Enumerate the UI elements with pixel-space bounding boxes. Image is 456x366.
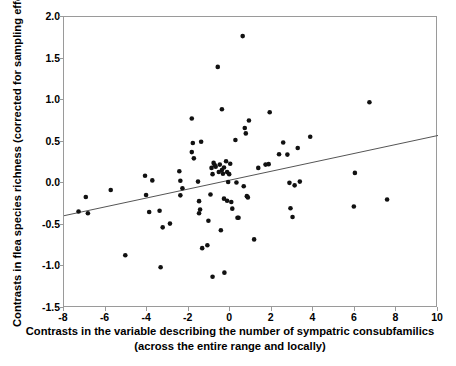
x-tick-label: 8	[380, 311, 410, 323]
x-tick-label: -2	[173, 311, 203, 323]
x-tick-label: 0	[214, 311, 244, 323]
x-tick-label: 2	[256, 311, 286, 323]
x-tick-label: 10	[422, 311, 452, 323]
x-tick-label: 6	[339, 311, 369, 323]
x-axis-label: Contrasts in the variable describing the…	[20, 324, 440, 354]
x-axis-tick-labels: -8-6-4-20246810	[0, 0, 456, 366]
x-tick-label: 4	[297, 311, 327, 323]
x-tick-label: -4	[131, 311, 161, 323]
x-tick-label: -6	[90, 311, 120, 323]
x-tick-label: -8	[48, 311, 78, 323]
scatter-plot-figure: Contrasts in flea species richness (corr…	[0, 0, 456, 366]
